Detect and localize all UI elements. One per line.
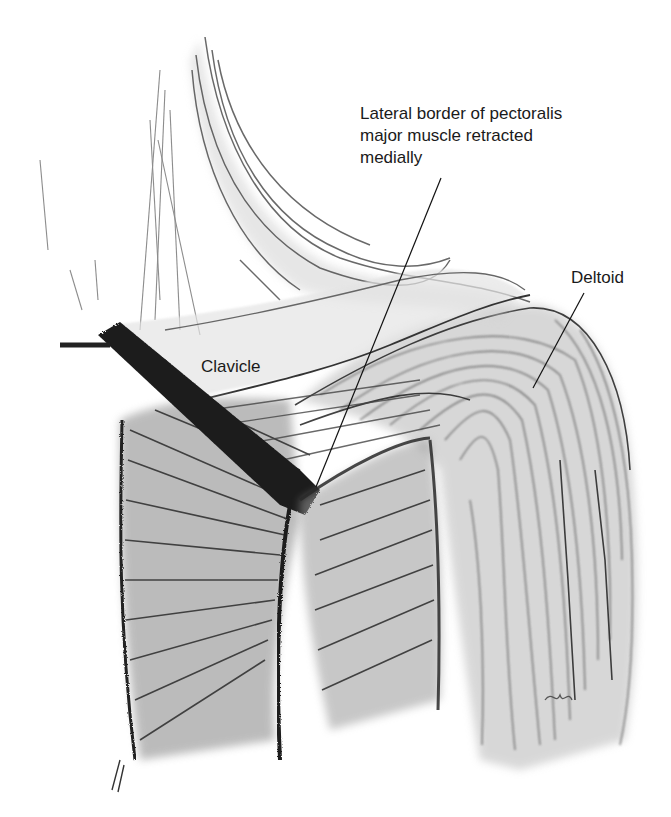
neck-strands: [40, 70, 200, 335]
shoulder-drawing: [0, 0, 671, 817]
stray-marks: [112, 760, 124, 792]
label-clavicle: Clavicle: [201, 356, 261, 378]
label-pectoralis-major: Lateral border of pectoralis major muscl…: [360, 103, 562, 169]
retracted-pectoralis-border: [300, 438, 442, 730]
label-deltoid: Deltoid: [571, 267, 624, 289]
figure-canvas: Lateral border of pectoralis major muscl…: [0, 0, 671, 817]
